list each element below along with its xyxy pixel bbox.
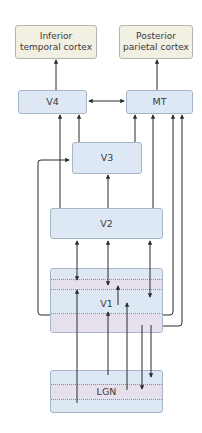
inferior-temporal-cortex-box: Inferior temporal cortex [15,25,97,59]
v3-box: V3 [72,142,142,174]
v2-label: V2 [100,218,113,230]
lgn-box: LGN [50,370,163,413]
v2-box: V2 [50,208,163,239]
v1-layer-band-upper [51,279,162,289]
v1-layer-band-lower [51,314,162,333]
v1-layer-divider [51,279,162,280]
arrow-v1-to-mt-b [163,115,182,326]
v1-box: V1 [50,268,163,333]
posterior-parietal-cortex-label-2: parietal cortex [123,42,189,54]
v1-layer-divider [51,313,162,314]
posterior-parietal-cortex-label-1: Posterior [136,31,176,43]
inferior-temporal-cortex-label-2: temporal cortex [20,42,92,54]
lgn-layer-band [51,384,162,399]
lgn-layer-divider [51,384,162,385]
mt-label: MT [153,96,167,108]
v1-layer-divider [51,289,162,290]
arrow-v1-to-mt-a [163,115,173,315]
inferior-temporal-cortex-label-1: Inferior [40,31,72,43]
v1-label: V1 [100,298,113,310]
posterior-parietal-cortex-box: Posterior parietal cortex [119,25,193,59]
lgn-layer-divider [51,399,162,400]
mt-box: MT [126,90,193,114]
v4-label: V4 [46,96,59,108]
v3-label: V3 [101,152,114,164]
v4-box: V4 [18,90,87,114]
